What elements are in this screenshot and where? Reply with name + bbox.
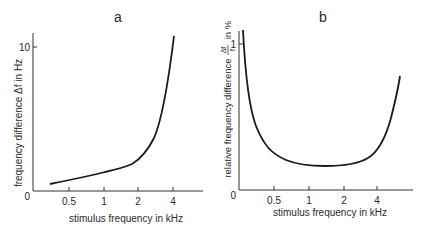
panel-b-y-label-text: relative frequency difference (222, 58, 233, 177)
panel-a-xtick-label-4: 4 (170, 196, 176, 207)
panel-b-y-label-frac-num: Δf (220, 47, 227, 54)
panel-b-xtick-label-0.5: 0.5 (267, 195, 281, 206)
panel-a-ytick-label-10: 10 (19, 42, 31, 53)
panel-b-xticks (274, 186, 377, 190)
panel-b-xtick-label-2: 2 (341, 195, 347, 206)
panel-a-xticks (69, 187, 173, 191)
figure: a 10 0 0.5 1 2 4 stimulus frequency in k… (0, 0, 425, 234)
panel-b: b 1 0 0.5 1 2 4 stimulus frequency in kH… (220, 9, 413, 218)
panel-b-xtick-label-4: 4 (374, 195, 380, 206)
panel-b-y-label-suffix: in % (222, 20, 233, 39)
panel-a-title: a (114, 9, 122, 25)
panel-b-xtick-label-1: 1 (306, 195, 312, 206)
panel-a-xtick-label-2: 2 (135, 196, 141, 207)
panel-b-x-label: stimulus frequency in kHz (273, 207, 387, 218)
panel-a-xtick-label-1: 1 (101, 196, 107, 207)
panel-a-curve (50, 36, 174, 184)
panel-a-x-label: stimulus frequency in kHz (69, 213, 183, 224)
panel-b-curve (243, 30, 400, 166)
panel-a: a 10 0 0.5 1 2 4 stimulus frequency in k… (13, 9, 203, 224)
panel-b-ytick-label-0: 0 (230, 190, 236, 201)
panel-a-ytick-label-0: 0 (24, 191, 30, 202)
panel-b-title: b (319, 9, 327, 25)
panel-b-ytick-label-1: 1 (230, 39, 236, 50)
panel-a-y-label: frequency difference Δf in Hz (13, 59, 24, 187)
panel-a-xtick-label-0.5: 0.5 (62, 196, 76, 207)
panel-b-y-label-frac-den: f (229, 49, 236, 51)
